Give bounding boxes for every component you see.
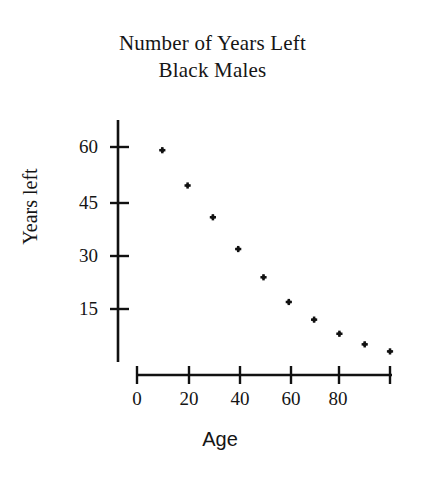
x-axis bbox=[137, 366, 392, 384]
plot-area bbox=[0, 0, 425, 491]
data-point-marker bbox=[311, 317, 317, 323]
data-point-marker bbox=[336, 331, 342, 337]
data-point-series bbox=[159, 147, 393, 354]
data-point-marker bbox=[159, 147, 165, 153]
data-point-marker bbox=[387, 348, 393, 354]
data-point-marker bbox=[260, 274, 266, 280]
data-point-marker bbox=[286, 299, 292, 305]
chart-figure: Number of Years Left Black Males Years l… bbox=[0, 0, 425, 491]
y-axis bbox=[110, 120, 129, 362]
data-point-marker bbox=[362, 341, 368, 347]
data-point-marker bbox=[185, 182, 191, 188]
data-point-marker bbox=[210, 214, 216, 220]
data-point-marker bbox=[235, 246, 241, 252]
